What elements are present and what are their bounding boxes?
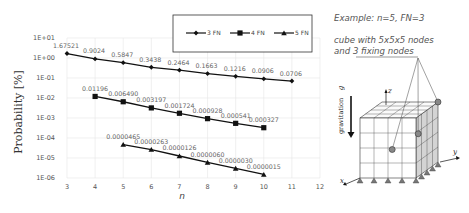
data-label: 0.5847 (111, 51, 133, 58)
marker-diamond (93, 56, 98, 61)
legend-label: 4 FN (251, 29, 265, 36)
legend: 3 FN4 FN5 FN (173, 15, 312, 52)
cube-description-line2: and 3 fixing nodes (334, 46, 414, 56)
pointer-line (418, 58, 438, 102)
data-label: 0.9024 (83, 47, 105, 54)
data-label: 0.001724 (164, 102, 194, 109)
x-tick-label: 3 (65, 183, 69, 191)
data-label: 0.0906 (252, 67, 274, 74)
data-label: 0.006490 (108, 90, 138, 97)
data-label: 0.000928 (193, 107, 223, 114)
cube-description-line1: cube with 5x5x5 nodes (334, 35, 434, 45)
y-axis-arrow-icon (440, 158, 458, 162)
g-label: g (337, 85, 345, 90)
x-tick-label: 11 (288, 183, 296, 191)
marker-square (205, 116, 210, 121)
marker-diamond (289, 79, 294, 84)
y-tick-label: 1E-05 (36, 154, 55, 162)
fixing-node-icon (389, 147, 395, 153)
marker-square (121, 99, 126, 104)
marker-square (149, 105, 154, 110)
x-tick-label: 12 (316, 183, 324, 191)
y-axis-label: y (452, 148, 458, 156)
y-tick-labels: 1E+011E+001E-011E-021E-031E-041E-051E-06 (33, 34, 55, 182)
fixing-node-icon (415, 131, 421, 137)
marker-square (177, 111, 182, 116)
data-label: 0.0000015 (247, 163, 281, 170)
x-tick-label: 5 (121, 183, 125, 191)
fixing-node-icon (435, 99, 441, 105)
x-tick-label: 4 (93, 183, 97, 191)
support-icon (399, 178, 405, 183)
example-annotation: Example: n=5, FN=3 (334, 13, 425, 23)
y-axis-label: Probability [%] (12, 70, 25, 154)
data-label: 0.000541 (221, 112, 251, 119)
x-tick-label: 9 (234, 183, 238, 191)
marker-diamond (261, 76, 266, 81)
y-tick-label: 1E-03 (36, 114, 55, 122)
y-axis-head-icon (456, 156, 460, 160)
data-labels: 1.675210.90240.58470.34380.24640.16630.1… (53, 42, 302, 170)
marker-diamond (177, 68, 182, 73)
marker-diamond (149, 65, 154, 70)
legend-label: 3 FN (207, 29, 221, 36)
x-tick-labels: 3456789101112 (65, 183, 324, 191)
data-label: 0.3438 (139, 56, 161, 63)
data-label: 0.003197 (136, 96, 166, 103)
gravitation-label: gravitation (337, 98, 345, 134)
marker-diamond (205, 71, 210, 76)
x-tick-label: 8 (205, 183, 209, 191)
marker-diamond (121, 60, 126, 65)
support-icon (371, 178, 377, 183)
x-tick-label: 6 (149, 183, 153, 191)
y-tick-label: 1E-02 (36, 94, 55, 102)
support-icon (385, 178, 391, 183)
legend-label: 5 FN (295, 29, 309, 36)
y-tick-label: 1E-04 (36, 134, 55, 142)
x-axis-label: n (179, 191, 185, 201)
y-tick-label: 1E+00 (33, 54, 55, 62)
y-tick-label: 1E-01 (36, 74, 55, 82)
x-tick-label: 7 (177, 183, 181, 191)
data-label: 0.01196 (82, 85, 108, 92)
marker-diamond (65, 51, 70, 56)
gravity-arrow-head-icon (348, 132, 355, 138)
data-label: 0.2464 (167, 59, 189, 66)
y-tick-label: 1E-06 (36, 174, 55, 182)
marker-square (261, 125, 266, 130)
y-tick-label: 1E+01 (33, 34, 55, 42)
data-label: 0.0706 (280, 70, 302, 77)
support-icon (413, 178, 419, 183)
data-label: 0.000327 (249, 116, 279, 123)
x-tick-label: 10 (260, 183, 268, 191)
marker-square (93, 94, 98, 99)
data-label: 1.67521 (53, 42, 79, 49)
z-axis-label: z (387, 87, 392, 95)
cube-diagram: gravitationgzyx (337, 58, 460, 186)
probability-chart: 1E+011E+001E-011E-021E-031E-041E-051E-06… (0, 0, 469, 213)
marker-square (237, 30, 242, 35)
data-label: 0.1663 (196, 62, 218, 69)
x-axis-label: x (340, 177, 344, 185)
marker-square (233, 121, 238, 126)
data-label: 0.1216 (224, 65, 246, 72)
